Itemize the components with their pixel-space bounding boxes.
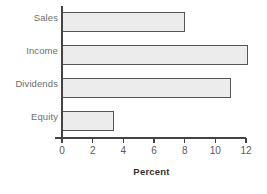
x-tick-label-8: 8 <box>175 145 195 156</box>
x-tick-4 <box>123 138 125 143</box>
category-label-equity: Equity <box>0 111 58 122</box>
bar-chart: Sales Income Dividends Equity 024681012 … <box>0 0 267 194</box>
bar-sales <box>62 12 185 32</box>
x-tick-label-12: 12 <box>236 145 256 156</box>
x-tick-12 <box>245 138 247 143</box>
category-axis-labels: Sales Income Dividends Equity <box>0 6 58 137</box>
category-label-dividends: Dividends <box>0 78 58 89</box>
bar-equity <box>62 111 114 131</box>
y-axis-line <box>61 6 63 143</box>
x-tick-0 <box>61 138 63 143</box>
x-tick-6 <box>153 138 155 143</box>
x-axis-line <box>55 137 246 139</box>
x-tick-8 <box>184 138 186 143</box>
x-axis-title: Percent <box>0 166 267 177</box>
category-label-sales: Sales <box>0 12 58 23</box>
x-tick-label-6: 6 <box>144 145 164 156</box>
x-tick-label-2: 2 <box>83 145 103 156</box>
category-label-income: Income <box>0 45 58 56</box>
x-tick-label-4: 4 <box>113 145 133 156</box>
x-tick-2 <box>92 138 94 143</box>
x-tick-10 <box>215 138 217 143</box>
bar-income <box>62 45 248 65</box>
x-tick-label-0: 0 <box>52 145 72 156</box>
x-tick-label-10: 10 <box>205 145 225 156</box>
plot-area <box>62 6 246 137</box>
bar-dividends <box>62 78 231 98</box>
